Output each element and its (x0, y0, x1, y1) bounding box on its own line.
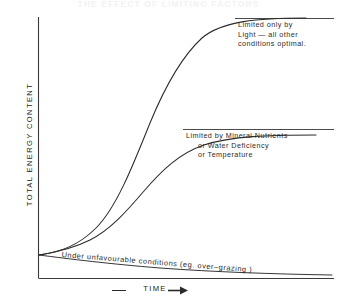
annotation-light-line-2: Light — all other (238, 30, 298, 39)
x-axis-label: TIME (100, 284, 210, 293)
chart-figure: THE EFFECT OF LIMITING FACTORS TOTAL ENE… (0, 0, 337, 303)
annotation-nutrients-line-3: or Temperature (186, 150, 288, 160)
annotation-light-line-3: conditions optimal. (238, 39, 306, 48)
annotation-nutrients-line-1: Limited by Mineral Nutrients (186, 131, 288, 140)
annotation-nutrients-line-2: or Water Deficiency (186, 141, 288, 151)
annotation-limited-by-light: Limited only by Light — all other condit… (238, 20, 306, 49)
annotation-light-line-1: Limited only by (238, 20, 293, 29)
annotation-limited-by-nutrients: Limited by Mineral Nutrients or Water De… (186, 131, 288, 160)
y-axis-label: TOTAL ENERGY CONTENT (25, 70, 34, 220)
